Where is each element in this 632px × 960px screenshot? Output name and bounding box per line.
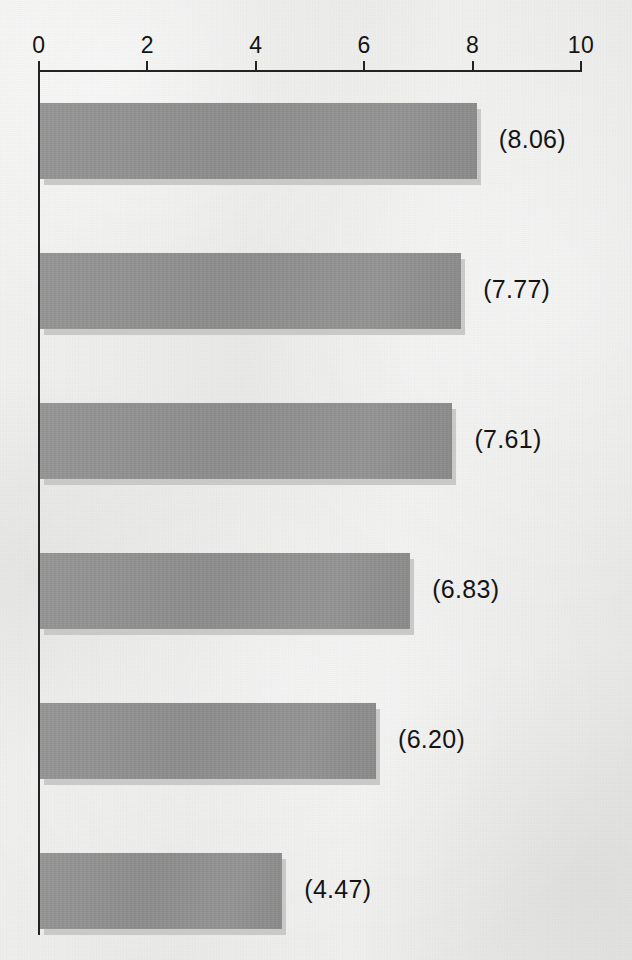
bar-2[interactable] bbox=[40, 253, 461, 329]
bar-value-label-6: (4.47) bbox=[304, 875, 371, 904]
x-axis-tick-label-10: 10 bbox=[568, 32, 595, 59]
bar-4[interactable] bbox=[40, 553, 410, 629]
x-axis-tick-label-8: 8 bbox=[466, 32, 479, 59]
bar-value-label-5: (6.20) bbox=[398, 725, 465, 754]
x-axis-tick-label-0: 0 bbox=[32, 32, 45, 59]
y-axis-line bbox=[38, 70, 40, 935]
bar-value-label-1: (8.06) bbox=[499, 125, 566, 154]
x-axis-tick-10 bbox=[580, 61, 582, 70]
bar-value-label-3: (7.61) bbox=[474, 425, 541, 454]
x-axis-tick-8 bbox=[472, 61, 474, 70]
bar-value-label-4: (6.83) bbox=[432, 575, 499, 604]
x-axis-tick-label-6: 6 bbox=[358, 32, 371, 59]
bar-6[interactable] bbox=[40, 853, 282, 929]
x-axis-tick-label-4: 4 bbox=[249, 32, 262, 59]
bar-1[interactable] bbox=[40, 103, 477, 179]
bar-5[interactable] bbox=[40, 703, 376, 779]
x-axis-tick-4 bbox=[255, 61, 257, 70]
x-axis-tick-0 bbox=[38, 61, 40, 70]
chart-page: (8.06)(7.77)(7.61)(6.83)(6.20)(4.47) 024… bbox=[0, 0, 632, 960]
plot-area: (8.06)(7.77)(7.61)(6.83)(6.20)(4.47) bbox=[0, 0, 632, 960]
x-axis-tick-6 bbox=[363, 61, 365, 70]
bar-value-label-2: (7.77) bbox=[483, 275, 550, 304]
bar-3[interactable] bbox=[40, 403, 452, 479]
x-axis-line bbox=[38, 70, 582, 72]
x-axis-tick-2 bbox=[146, 61, 148, 70]
x-axis-tick-label-2: 2 bbox=[141, 32, 154, 59]
